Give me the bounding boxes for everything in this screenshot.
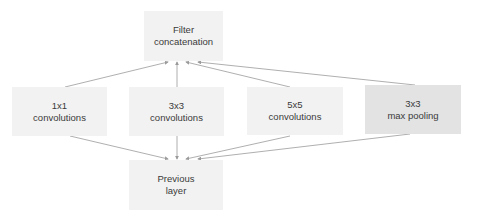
node-label-line1: 5x5 (287, 99, 302, 111)
node-filter-concatenation: Filter concatenation (144, 11, 223, 61)
node-5x5-convolutions: 5x5 convolutions (247, 87, 343, 135)
node-label-line1: 1x1 (52, 100, 67, 112)
node-label-line1: 3x3 (169, 100, 184, 112)
node-label-line1: Filter (173, 24, 194, 36)
edge-conv1-concat (65, 62, 168, 87)
edge-pool-concat (198, 62, 415, 85)
node-label-line2: convolutions (33, 112, 86, 124)
node-previous-layer: Previous layer (129, 160, 223, 210)
edge-conv1-prev (70, 136, 168, 159)
node-label-line2: concatenation (154, 36, 213, 48)
node-label-line2: convolutions (269, 111, 322, 123)
edge-conv5-concat (186, 62, 290, 87)
node-3x3-max-pooling: 3x3 max pooling (365, 85, 461, 134)
node-label-line1: 3x3 (405, 98, 420, 110)
node-1x1-convolutions: 1x1 convolutions (12, 87, 107, 136)
node-label-line2: convolutions (150, 112, 203, 124)
node-label-line1: Previous (158, 173, 195, 185)
node-label-line2: layer (166, 185, 187, 197)
edge-conv5-prev (186, 136, 290, 159)
node-3x3-convolutions: 3x3 convolutions (129, 87, 224, 136)
node-label-line2: max pooling (387, 110, 438, 122)
edge-pool-prev (198, 134, 410, 159)
